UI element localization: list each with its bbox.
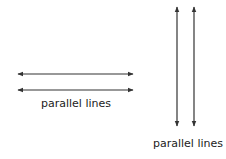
horizontal-parallel-lines — [18, 74, 133, 90]
vertical-parallel-lines — [177, 7, 194, 126]
vertical-lines-label: parallel lines — [153, 138, 223, 149]
diagram-canvas — [0, 0, 226, 159]
horizontal-lines-label: parallel lines — [41, 98, 111, 109]
